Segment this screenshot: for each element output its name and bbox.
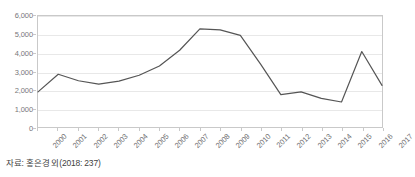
- x-tick-label: 2001: [71, 132, 89, 150]
- x-tick-mark: [57, 128, 58, 131]
- y-tick-label: 4,000: [15, 48, 33, 57]
- x-tick-mark: [118, 128, 119, 131]
- y-axis: 01,0002,0003,0004,0005,0006,000: [0, 15, 33, 128]
- source-note: 자료: 홍은경 외(2018: 237): [6, 156, 101, 168]
- x-tick-mark: [78, 128, 79, 131]
- x-tick-mark: [383, 128, 384, 131]
- y-tick-label: 5,000: [15, 29, 33, 38]
- x-tick-label: 2006: [173, 132, 191, 150]
- x-tick-label: 2010: [254, 132, 272, 150]
- x-tick-label: 2014: [336, 132, 354, 150]
- x-tick-mark: [322, 128, 323, 131]
- x-axis: 2000200120022003200420052006200720082009…: [37, 132, 383, 154]
- x-tick-label: 2012: [295, 132, 313, 150]
- line-series: [38, 16, 382, 127]
- x-tick-label: 2007: [193, 132, 211, 150]
- x-tick-label: 2004: [132, 132, 150, 150]
- x-tick-mark: [302, 128, 303, 131]
- x-tick-mark: [363, 128, 364, 131]
- x-tick-label: 2017: [397, 132, 415, 150]
- x-tick-label: 2013: [315, 132, 333, 150]
- x-tick-label: 2009: [234, 132, 252, 150]
- x-tick-mark: [281, 128, 282, 131]
- x-tick-mark: [261, 128, 262, 131]
- x-tick-label: 2015: [356, 132, 374, 150]
- x-tick-mark: [342, 128, 343, 131]
- y-tick-label: 2,000: [15, 86, 33, 95]
- y-tick-mark: [33, 128, 36, 129]
- x-tick-mark: [220, 128, 221, 131]
- x-tick-label: 2008: [214, 132, 232, 150]
- x-tick-label: 2003: [112, 132, 130, 150]
- y-tick-label: 3,000: [15, 67, 33, 76]
- y-tick-mark: [33, 90, 36, 91]
- y-tick-mark: [33, 34, 36, 35]
- y-tick-mark: [33, 53, 36, 54]
- x-tick-label: 2002: [91, 132, 109, 150]
- chart-title: [0, 0, 394, 5]
- x-tick-label: 2000: [51, 132, 69, 150]
- y-tick-mark: [33, 109, 36, 110]
- x-tick-label: 2005: [153, 132, 171, 150]
- series-1-path: [38, 29, 382, 102]
- y-tick-label: 6,000: [15, 11, 33, 20]
- plot-area: [37, 15, 383, 128]
- x-tick-mark: [139, 128, 140, 131]
- x-tick-mark: [98, 128, 99, 131]
- x-tick-label: 2016: [376, 132, 394, 150]
- x-tick-mark: [241, 128, 242, 131]
- x-tick-mark: [159, 128, 160, 131]
- x-tick-label: 2011: [274, 132, 291, 149]
- y-tick-mark: [33, 72, 36, 73]
- x-tick-mark: [179, 128, 180, 131]
- x-tick-mark: [37, 128, 38, 131]
- y-tick-label: 1,000: [15, 105, 33, 114]
- y-tick-mark: [33, 15, 36, 16]
- x-tick-mark: [200, 128, 201, 131]
